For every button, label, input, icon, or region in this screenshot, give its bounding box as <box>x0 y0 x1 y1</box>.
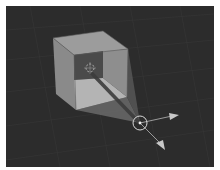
3d-viewport[interactable] <box>6 6 214 167</box>
gizmo-y-arrow-icon <box>156 140 165 150</box>
gizmo-x-arrow-icon <box>169 113 179 120</box>
gizmo-x-axis <box>140 116 172 123</box>
cube-inner-back <box>74 51 103 80</box>
viewport-canvas[interactable] <box>6 6 214 167</box>
gizmo-center-dot <box>139 122 142 125</box>
